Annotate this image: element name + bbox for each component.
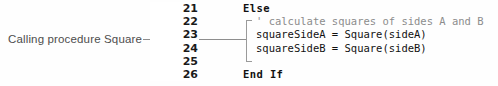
annotation-label: Calling procedure Square [8, 32, 142, 46]
line-number: 21 [150, 2, 198, 15]
code-annotation-figure: Calling procedure Square 21 22 23 24 25 … [0, 0, 498, 86]
code-line: End If [243, 68, 484, 81]
code-line: squareSideB = Square(sideB) [243, 42, 484, 55]
code-line-comment: ' calculate squares of sides A and B [243, 15, 484, 28]
line-number: 26 [150, 68, 198, 81]
leader-line-right [199, 39, 246, 40]
line-number: 24 [150, 42, 198, 55]
line-number: 23 [150, 28, 198, 41]
block-bracket [246, 20, 252, 62]
line-number-gutter: 21 22 23 24 25 26 [150, 2, 198, 81]
code-listing: Else ' calculate squares of sides A and … [243, 2, 484, 81]
line-number: 22 [150, 15, 198, 28]
line-number: 25 [150, 55, 198, 68]
code-line: squareSideA = Square(sideA) [243, 28, 484, 41]
code-line: Else [243, 2, 484, 15]
code-line-blank [243, 55, 484, 68]
